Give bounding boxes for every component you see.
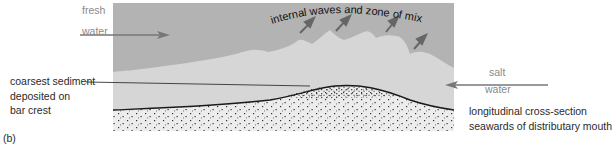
salt-water-label-line2: water xyxy=(485,81,511,97)
fresh-water-label-line2: water xyxy=(82,23,108,39)
fresh-water-label: fresh water xyxy=(82,2,108,39)
sediment-label: coarsest sediment deposited on bar crest xyxy=(10,74,95,118)
salt-water-label-line1: salt xyxy=(485,64,511,80)
fresh-water-label-line1: fresh xyxy=(82,2,108,18)
sediment-label-line2: deposited on xyxy=(10,89,95,104)
caption-line2: seawards of distributary mouth xyxy=(469,119,612,134)
salt-water-label: salt water xyxy=(485,64,511,97)
sediment-label-line1: coarsest sediment xyxy=(10,74,95,89)
caption: longitudinal cross-section seawards of d… xyxy=(469,104,612,134)
panel-label: (b) xyxy=(3,130,16,146)
caption-line1: longitudinal cross-section xyxy=(469,104,612,119)
sediment-label-line3: bar crest xyxy=(10,103,95,118)
